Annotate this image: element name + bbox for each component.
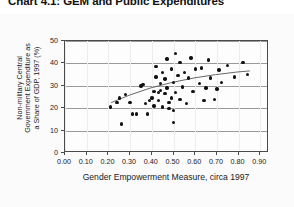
scatter-point (120, 122, 123, 125)
x-tick-mark (194, 152, 195, 155)
scatter-point (165, 86, 168, 89)
x-tick-mark (107, 152, 108, 155)
scatter-point (135, 112, 138, 115)
scatter-point (215, 87, 218, 90)
scatter-point (118, 96, 121, 99)
scatter-point (178, 98, 181, 101)
scatter-point (165, 57, 168, 60)
y-tick-label: 30 (32, 81, 58, 90)
scatter-point (207, 58, 210, 61)
scatter-point (191, 90, 194, 93)
scatter-point (131, 112, 134, 115)
scatter-point (163, 77, 166, 80)
scatter-point (170, 96, 173, 99)
y-tick-label: 10 (32, 126, 58, 135)
scatter-point (146, 112, 149, 115)
y-tick-label: 50 (32, 36, 58, 45)
scatter-point (183, 71, 186, 74)
scatter-point (181, 85, 184, 88)
scatter-point (167, 107, 170, 110)
y-tick-label: 20 (32, 103, 58, 112)
y-tick-mark (61, 85, 64, 86)
chart-title: Chart 4.1: GEM and Public Expenditures (8, 0, 288, 7)
x-tick-mark (129, 152, 130, 155)
x-tick-label: 0.90 (244, 157, 274, 166)
x-tick-mark (216, 152, 217, 155)
chart-panel: Non-military Central Government Expendit… (0, 14, 294, 207)
y-tick-label: 40 (32, 58, 58, 67)
scatter-point (178, 61, 181, 64)
x-tick-mark (238, 152, 239, 155)
y-tick-label: 0 (32, 148, 58, 157)
x-tick-mark (151, 152, 152, 155)
x-tick-mark (86, 152, 87, 155)
scatter-point (163, 92, 166, 95)
scatter-point (115, 101, 118, 104)
scatter-point (241, 61, 244, 64)
y-tick-mark (61, 130, 64, 131)
x-axis-title: Gender Empowerment Measure, circa 1997 (44, 172, 288, 182)
scatter-point (170, 67, 173, 70)
x-tick-mark (259, 152, 260, 155)
scatter-point (152, 90, 155, 93)
scatter-point (152, 104, 155, 107)
scatter-point (220, 81, 223, 84)
scatter-point (194, 67, 197, 70)
scatter-point (154, 75, 157, 78)
scatter-point (209, 76, 212, 79)
chart-figure: Chart 4.1: GEM and Public Expenditures N… (0, 0, 294, 207)
scatter-point (157, 99, 160, 102)
scatter-point (189, 56, 192, 59)
scatter-point (233, 75, 236, 78)
scatter-point (204, 86, 207, 89)
x-tick-mark (64, 152, 65, 155)
x-tick-mark (173, 152, 174, 155)
y-tick-mark (61, 40, 64, 41)
y-tick-mark (61, 107, 64, 108)
plot-area (64, 40, 268, 152)
scatter-point (150, 96, 153, 99)
y-tick-mark (61, 62, 64, 63)
scatter-point (202, 99, 205, 102)
scatter-point (217, 68, 220, 71)
scatter-point (109, 105, 112, 108)
